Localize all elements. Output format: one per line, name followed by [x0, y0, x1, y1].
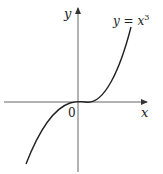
curve-label-exponent: 3 — [144, 13, 149, 22]
x-axis-label: x — [141, 105, 149, 120]
cubic-graph: y x 0 y = x3 — [0, 0, 163, 174]
origin-label: 0 — [68, 106, 76, 120]
y-axis-label: y — [63, 6, 72, 21]
curve-label: y = x3 — [112, 13, 149, 28]
curve-label-base: y = x — [112, 14, 144, 28]
